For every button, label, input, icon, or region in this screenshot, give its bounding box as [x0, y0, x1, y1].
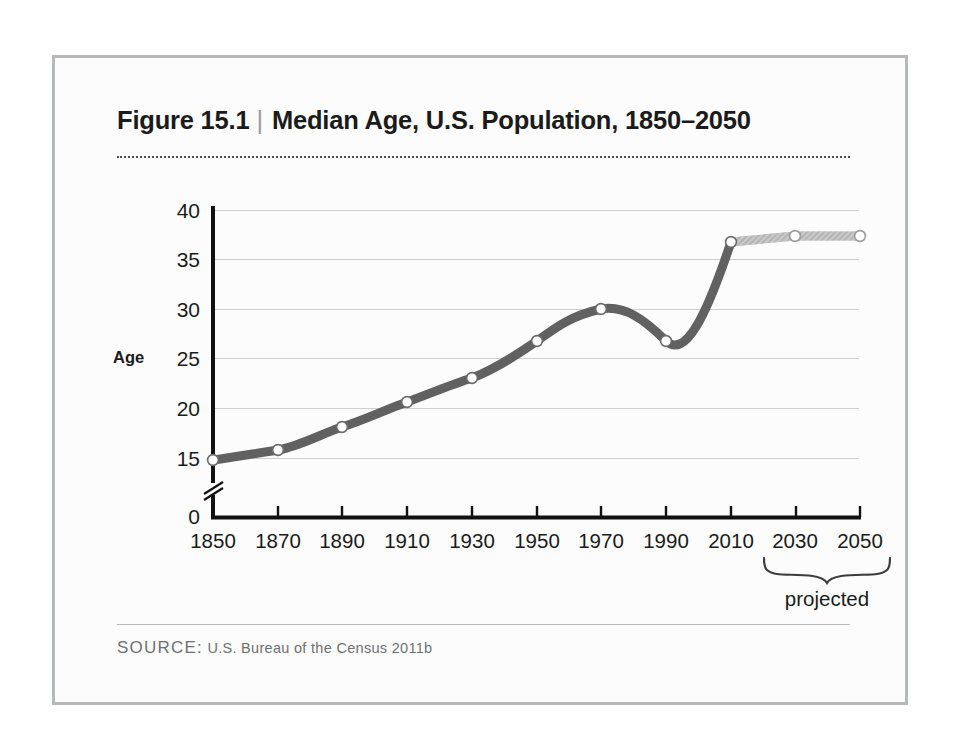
y-axis: [204, 206, 223, 519]
x-tick-label: 1850: [190, 529, 236, 552]
data-point-1970: [661, 336, 672, 347]
series-line-historical: [213, 242, 731, 460]
x-tick-label: 1870: [255, 529, 301, 552]
source-body: U.S. Bureau of the Census 2011b: [207, 640, 432, 656]
data-point-1950: [532, 336, 543, 347]
data-point-1850: [208, 455, 219, 466]
source-label: SOURCE:: [117, 638, 203, 657]
data-point-markers: [208, 231, 866, 466]
y-tick-label: 15: [177, 447, 200, 470]
x-tick-label: 1910: [384, 529, 430, 552]
data-point-2030: [790, 231, 801, 242]
source-divider: [117, 624, 850, 625]
data-point-peak: [596, 304, 607, 315]
x-axis-ticks: [278, 506, 860, 517]
x-tick-label: 1990: [643, 529, 689, 552]
x-tick-label: 2050: [837, 529, 883, 552]
data-point-1930: [467, 373, 478, 384]
projected-label: projected: [785, 587, 869, 610]
x-tick-labels: 1850 1870 1890 1910 1930 1950 1970 1990 …: [190, 529, 883, 552]
x-axis: [211, 506, 861, 518]
x-tick-label: 2010: [708, 529, 754, 552]
source-line: SOURCE: U.S. Bureau of the Census 2011b: [117, 638, 432, 658]
y-tick-label: 40: [177, 199, 200, 222]
data-point-1870: [273, 445, 284, 456]
gridlines: [213, 211, 859, 459]
data-point-2010: [726, 237, 737, 248]
figure-container: Figure 15.1|Median Age, U.S. Population,…: [52, 55, 908, 705]
x-tick-label: 1950: [514, 529, 560, 552]
y-tick-label: 35: [177, 248, 200, 271]
x-tick-label: 1970: [578, 529, 624, 552]
y-tick-label: 20: [177, 397, 200, 420]
data-point-1890: [337, 422, 348, 433]
y-tick-label: 0: [188, 505, 200, 528]
chart-plot-area: 40 35 30 25 20 15 0: [55, 58, 911, 708]
data-point-1910: [402, 397, 413, 408]
y-tick-label: 30: [177, 298, 200, 321]
y-tick-label: 25: [177, 347, 200, 370]
x-tick-label: 2030: [772, 529, 818, 552]
y-tick-labels: 40 35 30 25 20 15 0: [177, 199, 200, 528]
projected-brace-icon: [764, 558, 890, 583]
x-tick-label: 1930: [449, 529, 495, 552]
line-chart-svg: 40 35 30 25 20 15 0: [55, 58, 911, 708]
x-tick-label: 1890: [319, 529, 365, 552]
data-point-2050: [855, 231, 866, 242]
